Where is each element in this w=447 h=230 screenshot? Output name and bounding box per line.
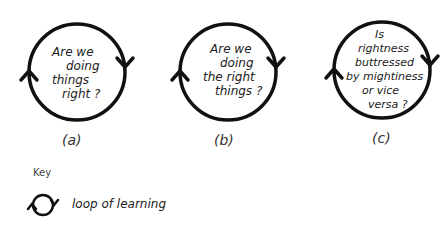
loop-a: Are we doing things right ? (a) xyxy=(21,24,133,148)
label-c: (c) xyxy=(372,130,391,146)
question-a: Are we doing things right ? xyxy=(51,45,103,101)
diagram-canvas: Are we doing things right ? (a) Are we d… xyxy=(0,0,447,230)
label-a: (a) xyxy=(62,132,82,148)
loop-b: Are we doing the right things ? (b) xyxy=(172,24,284,148)
loop-of-learning-icon xyxy=(28,195,58,215)
key-text: loop of learning xyxy=(72,197,166,211)
question-c: Is rightness buttressed by mightiness or… xyxy=(346,28,427,111)
key-title: Key xyxy=(33,167,51,178)
label-b: (b) xyxy=(214,132,234,148)
question-b: Are we doing the right things ? xyxy=(203,42,263,98)
loop-c: Is rightness buttressed by mightiness or… xyxy=(326,22,438,146)
